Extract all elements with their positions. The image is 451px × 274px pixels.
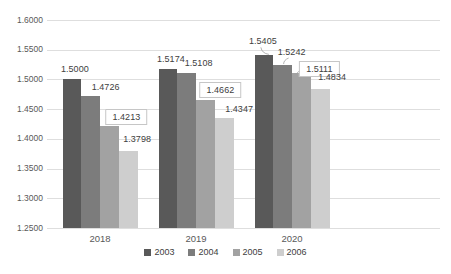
legend-item-label: 2006 <box>287 247 307 257</box>
bar-2003-2018 <box>63 79 82 228</box>
bar-2004-2018 <box>81 96 100 228</box>
bar-2003-2020 <box>255 55 274 228</box>
gridline <box>47 50 440 51</box>
legend-swatch-icon <box>144 249 151 256</box>
value-label-2006-2020: 1.4834 <box>318 72 346 82</box>
bar-2003-2019 <box>159 69 178 228</box>
x-axis-label-2019: 2019 <box>185 234 206 244</box>
gridline <box>47 20 440 21</box>
value-label-2004-2020: 1.5242 <box>278 47 306 57</box>
y-axis-tick-label: 1.4500 <box>0 105 43 114</box>
leader-line <box>261 47 269 54</box>
bar-2004-2020 <box>273 65 292 228</box>
y-axis-tick-label: 1.3500 <box>0 164 43 173</box>
gridline <box>47 228 440 229</box>
x-axis-label-2018: 2018 <box>89 234 110 244</box>
value-label-2005-2018: 1.4213 <box>106 109 148 125</box>
legend-swatch-icon <box>277 249 284 256</box>
value-label-2006-2018: 1.3798 <box>123 134 151 144</box>
y-axis-tick-label: 1.5500 <box>0 45 43 54</box>
legend-item-label: 2004 <box>198 247 218 257</box>
value-label-2003-2020: 1.5405 <box>249 36 277 46</box>
bar-2006-2018 <box>119 151 138 228</box>
value-label-2004-2018: 1.4726 <box>92 82 120 92</box>
y-axis-tick-label: 1.2500 <box>0 224 43 233</box>
bar-2005-2018 <box>100 126 119 228</box>
y-axis-tick-label: 1.3000 <box>0 194 43 203</box>
legend-item-label: 2003 <box>154 247 174 257</box>
bar-2006-2020 <box>311 89 330 228</box>
gridline <box>47 79 440 80</box>
value-label-2005-2019: 1.4662 <box>200 82 242 98</box>
bar-2004-2019 <box>177 73 196 228</box>
legend-item-2003: 2003 <box>144 247 174 257</box>
value-label-2003-2018: 1.5000 <box>61 64 89 74</box>
bar-chart: 1.60001.55001.50001.45001.40001.35001.30… <box>0 0 451 274</box>
bar-2005-2020 <box>292 73 311 228</box>
value-label-2004-2019: 1.5108 <box>185 58 213 68</box>
legend-swatch-icon <box>188 249 195 256</box>
bar-2005-2019 <box>196 100 215 228</box>
x-axis-label-2020: 2020 <box>281 234 302 244</box>
value-label-2006-2019: 1.4347 <box>225 104 253 114</box>
y-axis-tick-label: 1.5000 <box>0 75 43 84</box>
legend-item-2006: 2006 <box>277 247 307 257</box>
bar-2006-2019 <box>215 118 234 228</box>
legend-item-label: 2005 <box>243 247 263 257</box>
legend-item-2004: 2004 <box>188 247 218 257</box>
legend-item-2005: 2005 <box>233 247 263 257</box>
y-axis-tick-label: 1.6000 <box>0 16 43 25</box>
legend-swatch-icon <box>233 249 240 256</box>
leader-line <box>284 58 289 64</box>
value-label-2003-2019: 1.5174 <box>157 54 185 64</box>
y-axis-tick-label: 1.4000 <box>0 134 43 143</box>
legend: 2003200420052006 <box>0 247 451 257</box>
